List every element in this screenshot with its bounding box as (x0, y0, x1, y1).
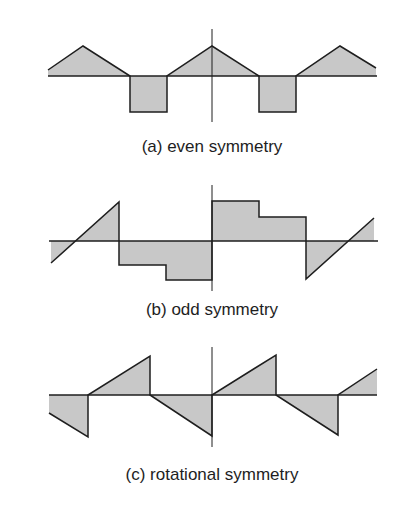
caption-rotational-symmetry: (c) rotational symmetry (0, 465, 405, 485)
symmetry-diagram (0, 0, 405, 514)
panel-c-rotational-symmetry (49, 347, 377, 447)
rotational-waveform-fill (49, 355, 377, 437)
caption-even-symmetry: (a) even symmetry (0, 137, 405, 157)
caption-odd-symmetry: (b) odd symmetry (0, 300, 405, 320)
panel-a-even-symmetry (48, 29, 377, 122)
panel-b-odd-symmetry (49, 185, 378, 291)
